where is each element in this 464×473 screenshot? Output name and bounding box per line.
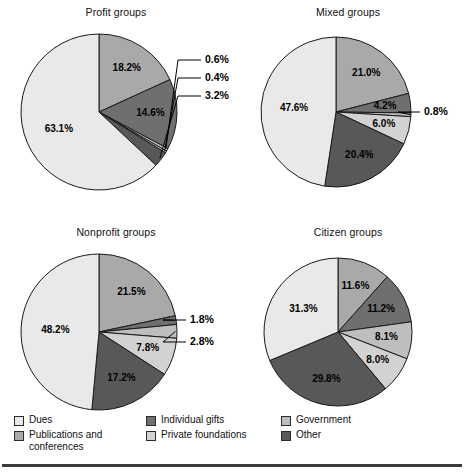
pie-slice-label: 11.6% (341, 280, 369, 291)
pie-slice-label: 0.4% (205, 71, 230, 83)
pie-slice-label: 18.2% (113, 62, 141, 73)
pie-slice-label: 8.0% (366, 354, 389, 365)
pie-slice-label: 31.3% (289, 303, 317, 314)
legend-item: Publications and conferences (14, 429, 102, 452)
pie-slice-label: 1.8% (190, 313, 215, 325)
pie-slice-label: 0.6% (205, 53, 230, 65)
panel-profit-groups: Profit groups 18.2%14.6%0.6%0.4%3.2%63.1… (0, 0, 232, 210)
legend-label: Government (296, 414, 351, 426)
pie-slice-label: 7.8% (136, 342, 159, 353)
legend-swatch-icon (14, 431, 24, 441)
pie-slice-label: 48.2% (41, 324, 69, 335)
legend-swatch-icon (146, 431, 156, 441)
legend-label: Publications and conferences (29, 429, 102, 452)
legend-column-1: DuesPublications and conferences (14, 414, 102, 455)
legend-item: Dues (14, 414, 102, 426)
legend-swatch-icon (14, 416, 24, 426)
legend-swatch-icon (281, 416, 291, 426)
panel-citizen-groups: Citizen groups 11.6%11.2%8.1%8.0%29.8%31… (232, 220, 464, 420)
pie-slice-label: 3.2% (205, 89, 230, 101)
pie-slice-label: 20.4% (345, 149, 373, 160)
pie-chart-figure: Profit groups 18.2%14.6%0.6%0.4%3.2%63.1… (0, 0, 464, 473)
pie-slice-label: 17.2% (107, 372, 135, 383)
legend-item: Individual gifts (146, 414, 247, 426)
legend-label: Private foundations (161, 429, 247, 441)
legend-label: Other (296, 429, 321, 441)
pie-citizen-groups: 11.6%11.2%8.1%8.0%29.8%31.3% (232, 220, 464, 420)
pie-mixed-groups: 21.0%4.2%0.8%6.0%20.4%47.6% (232, 0, 464, 210)
pie-slice-label: 29.8% (312, 373, 340, 384)
pie-slice-label: 14.6% (136, 107, 164, 118)
panel-nonprofit-groups: Nonprofit groups 21.5%1.8%2.8%7.8%17.2%4… (0, 220, 232, 420)
pie-slice-label: 11.2% (367, 303, 395, 314)
pie-profit-groups: 18.2%14.6%0.6%0.4%3.2%63.1% (0, 0, 232, 210)
pie-slice-label: 21.0% (352, 67, 380, 78)
pie-slice-label: 6.0% (373, 118, 396, 129)
pie-slice-label: 2.8% (190, 335, 215, 347)
legend-label: Individual gifts (161, 414, 224, 426)
bottom-rule (2, 464, 462, 467)
panel-mixed-groups: Mixed groups 21.0%4.2%0.8%6.0%20.4%47.6% (232, 0, 464, 210)
pie-slice-label: 8.1% (375, 331, 398, 342)
pie-slice-label: 0.8% (424, 105, 449, 117)
pie-slice-label: 21.5% (117, 286, 145, 297)
legend: DuesPublications and conferences Individ… (0, 414, 464, 460)
legend-column-3: GovernmentOther (281, 414, 351, 444)
legend-item: Private foundations (146, 429, 247, 441)
pie-slice-label: 47.6% (280, 102, 308, 113)
pie-slice-label: 63.1% (45, 123, 73, 134)
legend-item: Government (281, 414, 351, 426)
legend-column-2: Individual giftsPrivate foundations (146, 414, 247, 444)
legend-swatch-icon (281, 431, 291, 441)
pie-nonprofit-groups: 21.5%1.8%2.8%7.8%17.2%48.2% (0, 220, 232, 420)
legend-swatch-icon (146, 416, 156, 426)
pie-slice-label: 4.2% (374, 100, 397, 111)
legend-label: Dues (29, 414, 52, 426)
legend-item: Other (281, 429, 351, 441)
